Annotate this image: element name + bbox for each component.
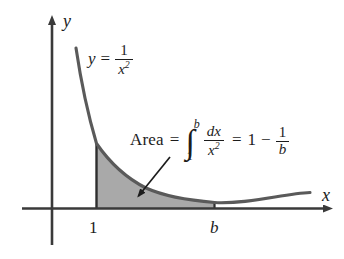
figure-graphics (0, 0, 344, 259)
figure-canvas: y x 1 b y= 1 x2 Area=∫ b 1 dx x2 =1− (0, 0, 344, 259)
